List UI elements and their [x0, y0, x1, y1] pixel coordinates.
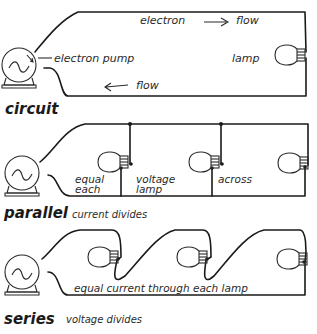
junction-node: [219, 122, 223, 126]
circuit-diagrams: electron flow electron pump lamp flow ci…: [0, 0, 317, 334]
lamp-1-icon: [98, 152, 128, 172]
electron-label: electron: [140, 14, 185, 27]
junction-node: [128, 122, 132, 126]
pump-icon: [5, 156, 39, 196]
circuit-section: electron flow electron pump lamp flow ci…: [2, 12, 306, 118]
series-note: equal current through each lamp: [74, 282, 248, 294]
parallel-section: equal each voltage lamp across parallel …: [3, 122, 308, 222]
series-title: series: [4, 310, 55, 328]
junction-node: [220, 162, 224, 166]
across-label: across: [218, 173, 252, 185]
lamp-1-icon: [88, 247, 118, 267]
each-label: each: [75, 183, 100, 195]
electron-pump-label: electron pump: [54, 52, 134, 65]
junction-node: [129, 162, 133, 166]
lamp-2-icon: [189, 152, 219, 172]
parallel-subtitle: current divides: [72, 209, 147, 220]
electron-pump-icon: [2, 48, 36, 88]
lamp-3-icon: [278, 153, 308, 173]
flow-bottom-label: flow: [136, 79, 159, 92]
lamp-label: lamp: [136, 183, 163, 195]
parallel-title: parallel: [3, 204, 69, 222]
pump-arrow-icon: [27, 55, 33, 62]
circuit-title: circuit: [5, 100, 59, 118]
pump-icon: [5, 255, 39, 295]
arrow-right-icon: [204, 18, 228, 26]
lamp-icon: [275, 45, 305, 65]
lamp-3-icon: [277, 249, 307, 269]
parallel-top-wire: [40, 124, 308, 165]
series-subtitle: voltage divides: [66, 314, 142, 325]
arrow-left-icon: [105, 83, 128, 91]
series-section: equal current through each lamp series v…: [4, 230, 307, 328]
lamp-label: lamp: [232, 52, 260, 65]
lamp-2-icon: [177, 247, 207, 267]
flow-top-label: flow: [236, 14, 259, 27]
